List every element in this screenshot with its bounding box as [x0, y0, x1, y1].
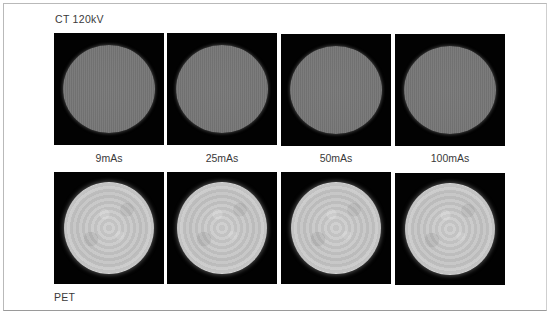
- ct-image-9mas: [54, 33, 164, 145]
- ct-phantom-disc: [176, 45, 268, 133]
- dose-label-9mas: 9mAs: [54, 152, 164, 164]
- ct-row-label: CT 120kV: [55, 13, 104, 25]
- ct-image-25mas: [167, 33, 277, 145]
- ct-image-50mas: [281, 34, 391, 146]
- pet-phantom-disc: [177, 182, 267, 274]
- ct-image-100mas: [395, 34, 505, 146]
- pet-image-50mas: [281, 172, 391, 284]
- pet-phantom-disc: [64, 182, 154, 274]
- ct-phantom-disc: [404, 46, 496, 134]
- dose-label-100mas: 100mAs: [395, 152, 505, 164]
- pet-image-9mas: [54, 172, 164, 284]
- pet-phantom-disc: [405, 183, 495, 275]
- dose-label-25mas: 25mAs: [167, 152, 277, 164]
- pet-phantom-disc: [291, 182, 381, 274]
- pet-image-100mas: [395, 173, 505, 285]
- ct-phantom-disc: [290, 46, 382, 134]
- dose-label-50mas: 50mAs: [281, 152, 391, 164]
- pet-image-25mas: [167, 172, 277, 284]
- pet-row-label: PET: [54, 291, 75, 303]
- ct-phantom-disc: [63, 45, 155, 133]
